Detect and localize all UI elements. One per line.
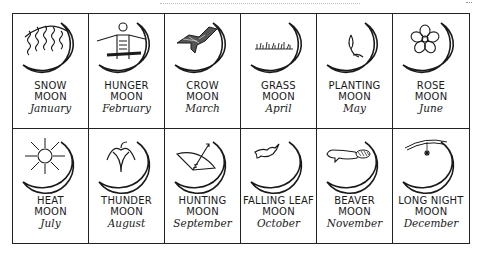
month-name: January [13, 103, 88, 114]
hungry-figure-icon [93, 17, 161, 79]
grass-icon [245, 17, 313, 79]
beaver-icon [321, 132, 389, 194]
moon-name: LONG NIGHT [393, 195, 469, 206]
moon-name-suffix: MOON [13, 206, 88, 217]
moon-label: HUNTING MOON September [165, 195, 240, 229]
moon-name-suffix: MOON [13, 91, 88, 102]
moon-cell-august: THUNDER MOON August [89, 129, 165, 244]
moon-label: HEAT MOON July [13, 195, 88, 229]
month-name: August [89, 218, 164, 229]
moon-name: THUNDER [89, 195, 164, 206]
moon-label: GRASS MOON April [241, 80, 316, 114]
sprout-icon [321, 17, 389, 79]
moon-calendar-grid: SNOW MOON January HUNGER MOON February C… [12, 13, 470, 244]
moon-label: THUNDER MOON August [89, 195, 164, 229]
moon-name: CROW [165, 80, 240, 91]
moon-name-suffix: MOON [165, 206, 240, 217]
moon-name-suffix: MOON [165, 91, 240, 102]
month-name: March [165, 103, 240, 114]
moon-name-suffix: MOON [393, 206, 469, 217]
moon-name-suffix: MOON [241, 91, 316, 102]
moon-name-suffix: MOON [317, 206, 392, 217]
moon-name: PLANTING [317, 80, 392, 91]
month-name: September [165, 218, 240, 229]
moon-name: ROSE [393, 80, 469, 91]
moon-cell-october: FALLING LEAF MOON October [241, 129, 317, 244]
moon-name: SNOW [13, 80, 88, 91]
moon-name: HEAT [13, 195, 88, 206]
month-name: October [241, 218, 316, 229]
sun-icon [17, 132, 85, 194]
moon-name: HUNTING [165, 195, 240, 206]
moon-label: BEAVER MOON November [317, 195, 392, 229]
moon-name-suffix: MOON [89, 206, 164, 217]
month-name: April [241, 103, 316, 114]
thunder-symbol-icon [93, 132, 161, 194]
moon-name-suffix: MOON [317, 91, 392, 102]
moon-name: GRASS [241, 80, 316, 91]
moon-cell-april: GRASS MOON April [241, 14, 317, 129]
moon-cell-september: HUNTING MOON September [165, 129, 241, 244]
moon-cell-december: LONG NIGHT MOON December [393, 129, 469, 244]
moon-name: FALLING LEAF [241, 195, 316, 206]
moon-label: LONG NIGHT MOON December [393, 195, 469, 229]
moon-label: FALLING LEAF MOON October [241, 195, 316, 229]
moon-cell-march: CROW MOON March [165, 14, 241, 129]
rose-flower-icon [397, 17, 465, 79]
snow-wavy-lines-icon [17, 17, 85, 79]
moon-cell-june: ROSE MOON June [393, 14, 469, 129]
moon-name: HUNGER [89, 80, 164, 91]
cropped-page-mark [466, 0, 472, 3]
month-name: May [317, 103, 392, 114]
month-name: November [317, 218, 392, 229]
moon-name: BEAVER [317, 195, 392, 206]
moon-label: ROSE MOON June [393, 80, 469, 114]
falling-leaf-icon [245, 132, 313, 194]
moon-cell-january: SNOW MOON January [13, 14, 89, 129]
bow-arrow-icon [169, 132, 237, 194]
moon-label: CROW MOON March [165, 80, 240, 114]
moon-cell-july: HEAT MOON July [13, 129, 89, 244]
month-name: February [89, 103, 164, 114]
month-name: December [393, 218, 469, 229]
star-night-icon [397, 132, 465, 194]
moon-label: SNOW MOON January [13, 80, 88, 114]
cropped-header-text [160, 0, 360, 4]
moon-label: HUNGER MOON February [89, 80, 164, 114]
moon-name-suffix: MOON [393, 91, 469, 102]
moon-cell-february: HUNGER MOON February [89, 14, 165, 129]
moon-name-suffix: MOON [89, 91, 164, 102]
month-name: July [13, 218, 88, 229]
moon-name-suffix: MOON [241, 206, 316, 217]
crow-icon [169, 17, 237, 79]
moon-label: PLANTING MOON May [317, 80, 392, 114]
moon-cell-may: PLANTING MOON May [317, 14, 393, 129]
moon-cell-november: BEAVER MOON November [317, 129, 393, 244]
month-name: June [393, 103, 469, 114]
